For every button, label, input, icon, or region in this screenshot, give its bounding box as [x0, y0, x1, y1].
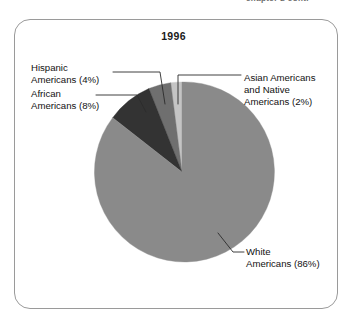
label-white-line1: White [246, 246, 320, 258]
label-hispanic-line2: Americans (4%) [31, 74, 99, 86]
label-asian-and-native-americans: Asian Americans and Native Americans (2%… [244, 72, 315, 109]
label-hispanic-line1: Hispanic [31, 62, 99, 74]
label-asian-line2: and Native [244, 84, 315, 96]
label-white-americans: White Americans (86%) [246, 246, 320, 270]
label-african-line2: Americans (8%) [31, 100, 99, 112]
label-african-line1: African [31, 88, 99, 100]
label-hispanic-americans: Hispanic Americans (4%) [31, 62, 99, 86]
label-white-line2: Americans (86%) [246, 258, 320, 270]
label-asian-line1: Asian Americans [244, 72, 315, 84]
label-african-americans: African Americans (8%) [31, 88, 99, 112]
label-asian-line3: Americans (2%) [244, 96, 315, 108]
